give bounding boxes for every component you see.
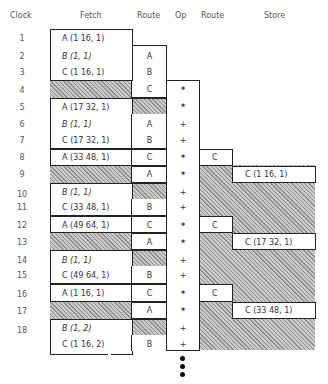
route-in-idle-row-5	[132, 98, 167, 115]
clock-2: 2	[14, 52, 30, 61]
clock-11: 11	[14, 203, 30, 212]
route-out-r16: C	[212, 289, 218, 298]
clock-16: 16	[14, 290, 30, 299]
continuation-dot-2	[180, 364, 185, 369]
clock-9: 9	[14, 170, 30, 179]
op-r8: *	[167, 154, 199, 163]
op-col-right-edge	[199, 80, 200, 351]
fetch-r16: A (1 16, 1)	[62, 289, 104, 298]
store-r9: C (1 16, 1)	[245, 170, 287, 179]
route-in-r4: C	[133, 85, 166, 94]
clock-17: 17	[14, 307, 30, 316]
op-r13: *	[167, 239, 199, 248]
route-in-r9: A	[133, 170, 166, 179]
clock-13: 13	[14, 238, 30, 247]
route-in-r6: A	[133, 120, 166, 129]
route-in-r2: A	[133, 52, 166, 61]
op-r6: +	[167, 120, 199, 129]
fetch-r1: A (1 16, 1)	[62, 34, 104, 43]
header-route-in: Route	[137, 11, 160, 20]
route-in-r15: B	[133, 271, 166, 280]
op-r5: *	[167, 103, 199, 112]
fetch-idle-row-4	[50, 81, 133, 98]
continuation-dot-1	[180, 356, 185, 361]
op-r7: +	[167, 136, 199, 145]
fetch-idle-row-9	[50, 166, 133, 183]
store-idle-hatch	[199, 165, 315, 350]
clock-3: 3	[14, 68, 30, 77]
clock-6: 6	[14, 120, 30, 129]
fetch-r15: C (49 64, 1)	[62, 271, 109, 280]
store-r17: C (33 48, 1)	[245, 306, 292, 315]
route-in-idle-row-18	[132, 319, 167, 336]
fetch-r7: C (17 32, 1)	[62, 136, 109, 145]
op-r11: +	[167, 203, 199, 212]
fetch-r18: B (1, 2)	[62, 324, 92, 333]
clock-5: 5	[14, 103, 30, 112]
clock-12: 12	[14, 221, 30, 230]
op-r16: *	[167, 290, 199, 299]
store-r13: C (17 32, 1)	[245, 238, 292, 247]
route-in-r16: C	[133, 289, 166, 298]
fetch-r11: C (33 48, 1)	[62, 203, 109, 212]
clock-14: 14	[14, 256, 30, 265]
continuation-dot-3	[180, 372, 185, 377]
fetch-r8: A (33 48, 1)	[62, 153, 109, 162]
op-r15: +	[167, 271, 199, 280]
route-in-r3: B	[133, 68, 166, 77]
clock-7: 7	[14, 136, 30, 145]
fetch-r19: C (1 16, 2)	[62, 340, 104, 349]
route-out-r12: C	[212, 221, 218, 230]
op-r17: *	[167, 307, 199, 316]
fetch-block-5-bottom-left	[50, 354, 108, 355]
clock-10: 10	[14, 190, 30, 199]
op-col-top-edge	[166, 80, 200, 81]
fetch-r12: A (49 64, 1)	[62, 221, 109, 230]
route-in-r11: B	[133, 203, 166, 212]
fetch-block-5-bottom-right	[111, 354, 133, 355]
clock-1: 1	[14, 34, 30, 43]
fetch-r5: A (17 32, 1)	[62, 103, 109, 112]
route-in-r8: C	[133, 153, 166, 162]
fetch-r14: B (1, 1)	[62, 256, 92, 265]
fetch-idle-row-13	[50, 233, 133, 250]
clock-4: 4	[14, 86, 30, 95]
header-clock: Clock	[10, 11, 32, 20]
fetch-r3: C (1 16, 1)	[62, 68, 104, 77]
route-in-r12: C	[133, 221, 166, 230]
route-in-r13: A	[133, 238, 166, 247]
op-r9: *	[167, 171, 199, 180]
route-in-r17: A	[133, 306, 166, 315]
header-route-out: Route	[201, 11, 224, 20]
op-r18: +	[167, 324, 199, 333]
fetch-r10: B (1, 1)	[62, 188, 92, 197]
clock-15: 15	[14, 271, 30, 280]
op-r10: +	[167, 188, 199, 197]
fetch-r2: B (1, 1)	[62, 52, 92, 61]
op-r14: +	[167, 256, 199, 265]
op-r19: +	[167, 340, 199, 349]
fetch-r6: B (1, 1)	[62, 120, 92, 129]
op-r4: *	[167, 86, 199, 95]
header-op: Op	[175, 11, 186, 20]
route-in-idle-row-14	[132, 250, 167, 267]
route-in-idle-row-10	[132, 183, 167, 200]
clock-18: 18	[14, 326, 30, 335]
op-col-bottom-edge	[166, 350, 200, 351]
op-r12: *	[167, 222, 199, 231]
clock-8: 8	[14, 153, 30, 162]
route-out-top-line-8	[199, 149, 233, 150]
route-in-r7: B	[133, 136, 166, 145]
route-out-r8: C	[212, 153, 218, 162]
header-store: Store	[264, 11, 285, 20]
fetch-idle-row-17	[50, 302, 133, 319]
header-fetch: Fetch	[80, 11, 102, 20]
route-in-r19: B	[133, 340, 166, 349]
